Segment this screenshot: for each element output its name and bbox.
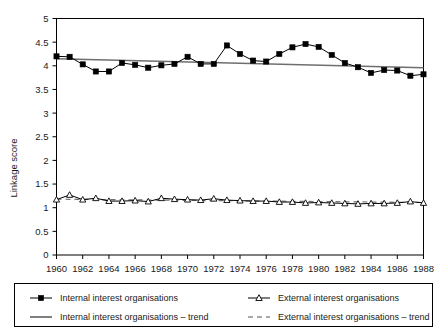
series-lines-group: [57, 44, 424, 204]
data-point-marker: [146, 65, 151, 70]
data-point-marker: [408, 73, 413, 78]
y-axis-tick-labels: 00.511.522.533.544.55: [35, 13, 48, 261]
data-point-marker: [106, 69, 111, 74]
data-point-marker: [67, 192, 73, 198]
data-point-marker: [368, 70, 373, 75]
x-tick-label: 1976: [256, 263, 277, 274]
data-point-marker: [185, 54, 190, 59]
data-point-marker: [159, 63, 164, 68]
data-point-marker: [93, 69, 98, 74]
trend-line: [57, 59, 424, 68]
data-point-marker: [198, 61, 203, 66]
y-tick-label: 2.5: [35, 131, 48, 142]
data-point-marker: [211, 196, 217, 202]
data-point-marker: [172, 61, 177, 66]
x-tick-label: 1984: [361, 263, 382, 274]
data-point-marker: [395, 68, 400, 73]
data-point-marker: [316, 44, 321, 49]
x-tick-label: 1960: [46, 263, 67, 274]
y-tick-label: 5: [43, 13, 48, 24]
x-tick-label: 1962: [72, 263, 93, 274]
y-axis-title: Linkage score: [8, 138, 19, 197]
data-point-marker: [355, 65, 360, 70]
data-point-marker: [421, 72, 426, 77]
y-axis-title-group: Linkage score: [8, 138, 19, 197]
data-point-marker: [303, 41, 308, 46]
x-tick-label: 1988: [413, 263, 434, 274]
y-tick-label: 4.5: [35, 37, 48, 48]
data-point-marker: [54, 54, 59, 59]
x-tick-label: 1964: [98, 263, 119, 274]
data-point-marker: [277, 51, 282, 56]
legend-label: External interest organisations – trend: [278, 312, 430, 322]
x-tick-label: 1966: [125, 263, 146, 274]
linkage-score-line-chart: Linkage score 00.511.522.533.544.55 1960…: [0, 0, 446, 336]
data-point-marker: [133, 62, 138, 67]
y-tick-label: 0: [43, 249, 48, 260]
x-tick-label: 1970: [177, 263, 198, 274]
x-tick-label: 1972: [203, 263, 224, 274]
data-point-marker: [67, 54, 72, 59]
data-point-marker: [342, 60, 347, 65]
x-tick-label: 1974: [229, 263, 250, 274]
data-point-marker: [329, 52, 334, 57]
data-point-marker: [251, 58, 256, 63]
data-point-marker: [211, 61, 216, 66]
y-tick-label: 4: [43, 60, 48, 71]
data-point-marker: [382, 67, 387, 72]
y-tick-label: 0.5: [35, 226, 48, 237]
data-point-marker: [264, 59, 269, 64]
legend-label: Internal interest organisations – trend: [60, 312, 209, 322]
data-point-marker: [290, 45, 295, 50]
data-point-marker: [407, 198, 413, 204]
y-tick-label: 1: [43, 202, 48, 213]
y-tick-label: 3.5: [35, 84, 48, 95]
legend-label: External interest organisations: [278, 293, 400, 303]
trend-lines-group: [57, 59, 424, 203]
y-tick-label: 3: [43, 108, 48, 119]
x-axis-tick-marks: [57, 255, 424, 259]
y-tick-label: 1.5: [35, 178, 48, 189]
x-tick-label: 1980: [308, 263, 329, 274]
x-tick-label: 1968: [151, 263, 172, 274]
x-tick-label: 1978: [282, 263, 303, 274]
data-point-marker: [80, 62, 85, 67]
x-tick-label: 1982: [334, 263, 355, 274]
data-point-marker: [224, 43, 229, 48]
x-axis-tick-labels: 1960196219641966196819701972197419761978…: [46, 263, 434, 274]
legend-entries-group: Internal interest organisationsExternal …: [30, 293, 430, 322]
chart-figure: Linkage score 00.511.522.533.544.55 1960…: [0, 0, 446, 336]
y-tick-label: 2: [43, 155, 48, 166]
data-point-marker: [119, 60, 124, 65]
data-point-marker: [158, 195, 164, 201]
x-tick-label: 1986: [387, 263, 408, 274]
data-point-marker: [93, 195, 99, 201]
legend-square-marker: [38, 295, 43, 300]
legend-label: Internal interest organisations: [60, 293, 179, 303]
data-point-marker: [237, 51, 242, 56]
